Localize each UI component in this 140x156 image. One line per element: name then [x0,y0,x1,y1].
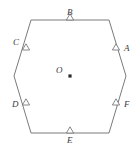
center-label-O: O [56,66,63,75]
vertex-label-f: F [124,100,130,109]
vertex-label-d: D [12,100,19,109]
edge-marker-triangle-a [112,44,119,50]
vertex-label-c: C [13,38,19,47]
center-point-marker [68,74,71,77]
vertex-label-b: B [67,8,73,17]
edge-marker-triangle-e [66,127,73,133]
vertex-label-e: E [67,136,73,145]
hexagon-figure: O ABCDEF [0,0,140,156]
edge-marker-layer [22,14,119,133]
hexagon-diagram-canvas [0,0,140,156]
vertex-label-a: A [124,44,130,53]
edge-marker-triangle-d [22,99,29,105]
